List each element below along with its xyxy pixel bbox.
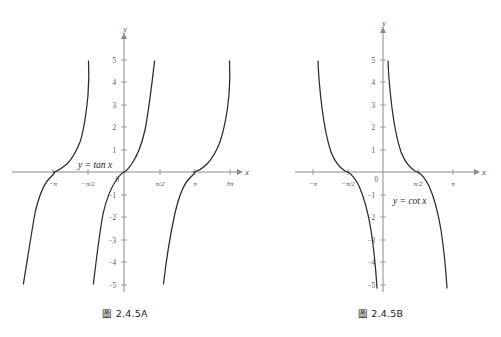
y-tick-label-m3: −3 [367, 237, 375, 245]
x-tick-label-neg-pi-2: −π/2 [81, 180, 95, 188]
figure-caption-a: 圖 2.4.5A [0, 306, 255, 320]
cot-curve-label: y = cot x [392, 196, 427, 206]
x-tick-label-neg-pi: −π [49, 180, 58, 188]
y-tick-label-1: 1 [371, 147, 375, 155]
y-tick-label-2: 2 [112, 124, 116, 132]
figure-panel-tan: x y 5 4 3 2 1 0 −1 −2 −3 [0, 0, 260, 337]
cot-branch-right [388, 61, 447, 288]
x-tick-label-pi: π [193, 180, 197, 188]
origin-label: 0 [374, 176, 378, 184]
y-tick-label-m3: −3 [108, 237, 116, 245]
y-tick-label-2: 2 [371, 124, 375, 132]
cot-branch-left [318, 61, 377, 288]
x-axis-name: x [244, 168, 249, 177]
x-tick-label-pi-2: π/2 [414, 180, 423, 188]
y-tick-label-4: 4 [112, 79, 116, 87]
y-tick-label-m5: −5 [367, 282, 375, 290]
y-tick-label-m5: −5 [108, 282, 116, 290]
tan-plot-svg: x y 5 4 3 2 1 0 −1 −2 −3 [0, 0, 260, 300]
y-tick-label-1: 1 [112, 147, 116, 155]
y-tick-label-5: 5 [371, 57, 375, 65]
y-tick-label-m4: −4 [108, 259, 116, 267]
y-tick-label-3: 3 [112, 102, 116, 110]
y-tick-label-m2: −2 [108, 214, 116, 222]
x-axis-name: x [481, 168, 486, 177]
y-tick-label-m1: −1 [367, 192, 375, 200]
x-tick-label-3pi: 3π [225, 180, 234, 188]
y-axis-name: y [381, 19, 386, 28]
y-axis-name: y [122, 25, 127, 34]
x-tick-label-neg-pi-2: −π/2 [341, 180, 355, 188]
y-tick-label-3: 3 [371, 102, 375, 110]
figure-caption-b: 圖 2.4.5B [260, 306, 501, 320]
cot-plot-svg: x y 5 4 3 2 1 0 −1 −2 −3 −4 [260, 0, 501, 300]
figure-panel-cot: x y 5 4 3 2 1 0 −1 −2 −3 −4 [260, 0, 501, 337]
tan-curve-label: y = tan x [77, 160, 113, 170]
figure-container: x y 5 4 3 2 1 0 −1 −2 −3 [0, 0, 501, 337]
y-tick-label-5: 5 [112, 57, 116, 65]
x-tick-label-neg-pi: −π [309, 180, 318, 188]
y-tick-label-4: 4 [371, 79, 375, 87]
x-tick-label-pi-2: π/2 [156, 180, 165, 188]
x-tick-label-pi: π [451, 180, 455, 188]
